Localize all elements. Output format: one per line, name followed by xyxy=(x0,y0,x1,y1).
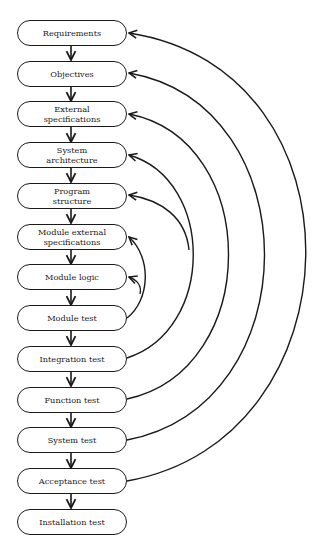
stage-label: Module test xyxy=(47,313,97,323)
stage-label: Objectives xyxy=(50,69,94,79)
stage-objectives: Objectives xyxy=(17,61,127,87)
stage-label: Installation test xyxy=(39,517,104,527)
arc-branch-to-module-logic xyxy=(129,277,140,294)
stage-function-test: Function test xyxy=(17,387,127,413)
arc-branch-to-program-structure xyxy=(129,195,189,250)
stage-label: Module logic xyxy=(45,272,99,282)
feedback-arcs xyxy=(127,33,306,481)
stage-label: Acceptance test xyxy=(39,476,105,486)
stage-label: System architecture xyxy=(46,145,97,165)
stage-system-test: System test xyxy=(17,427,127,453)
stage-label: External specifications xyxy=(44,104,101,124)
stage-label: Program structure xyxy=(53,186,92,206)
stage-requirements: Requirements xyxy=(17,20,127,46)
stage-installation-test: Installation test xyxy=(17,509,127,535)
arc-integration-test-to-system-architecture xyxy=(127,155,193,358)
stage-system-architecture: System architecture xyxy=(17,142,127,168)
stage-label: System test xyxy=(48,435,97,445)
stage-module-test: Module test xyxy=(17,305,127,331)
stage-label: Requirements xyxy=(43,28,101,38)
stage-acceptance-test: Acceptance test xyxy=(17,468,127,494)
arc-acceptance-to-requirements xyxy=(127,33,306,481)
stage-module-external-specifications: Module external specifications xyxy=(17,224,127,250)
stage-integration-test: Integration test xyxy=(17,346,127,372)
stage-program-structure: Program structure xyxy=(17,183,127,209)
stage-label: Module external specifications xyxy=(38,227,106,247)
stage-label: Integration test xyxy=(39,354,104,364)
stage-label: Function test xyxy=(44,395,99,405)
stage-external-specifications: External specifications xyxy=(17,101,127,127)
v-model-diagram: Requirements Objectives External specifi… xyxy=(0,0,316,547)
arc-system-test-to-objectives xyxy=(127,73,265,440)
stage-module-logic: Module logic xyxy=(17,264,127,290)
